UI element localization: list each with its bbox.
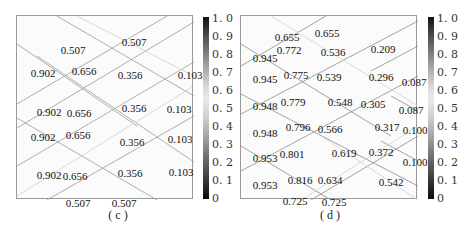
value-label: 0.953 <box>253 180 278 191</box>
value-label: 0.902 <box>37 107 62 118</box>
value-label: 0.100 <box>403 157 428 168</box>
value-label: 0.902 <box>37 170 62 181</box>
value-label: 0.656 <box>66 130 91 141</box>
colorbar-tick-label: 0. 8 <box>212 49 233 60</box>
colorbar-c <box>203 17 209 199</box>
value-label: 0.507 <box>112 198 137 209</box>
value-label: 0.087 <box>402 77 427 88</box>
colorbar-tick-label: 0. 5 <box>437 103 458 114</box>
value-label: 0.779 <box>281 97 306 108</box>
value-label: 0.656 <box>72 66 97 77</box>
colorbar-tick-label: 0. 1 <box>437 175 458 186</box>
value-label: 0.548 <box>328 97 353 108</box>
value-label: 0.634 <box>318 175 343 186</box>
colorbar-tick-label: 0. 4 <box>212 121 233 132</box>
heatmap-panel-d: 0.6550.6550.9450.7720.5360.2090.9450.775… <box>240 15 417 199</box>
value-label: 0.902 <box>31 68 56 79</box>
value-label: 0.801 <box>280 149 305 160</box>
value-label: 0.655 <box>315 28 340 39</box>
value-label: 0.296 <box>369 72 394 83</box>
colorbar-tick-label: 0. 3 <box>437 139 458 150</box>
value-label: 0.656 <box>67 108 92 119</box>
value-label: 0.566 <box>318 124 343 135</box>
colorbar-tick-label: 0. 2 <box>437 157 458 168</box>
colorbar-tick-label: 0. 8 <box>437 49 458 60</box>
value-label: 0.725 <box>322 197 347 208</box>
value-label: 0.372 <box>369 147 394 158</box>
value-label: 0.536 <box>321 47 346 58</box>
caption-c: ( c ) <box>108 208 127 223</box>
colorbar-tick-label: 1. 0 <box>437 13 458 24</box>
colorbar-tick-label: 0. 7 <box>212 67 233 78</box>
value-label: 0.725 <box>283 196 308 207</box>
colorbar-tick-label: 0. 6 <box>212 85 233 96</box>
value-label: 0.356 <box>120 137 145 148</box>
value-label: 0.945 <box>253 74 278 85</box>
value-label: 0.356 <box>118 70 143 81</box>
value-label: 0.103 <box>168 134 193 145</box>
value-label: 0.619 <box>332 148 357 159</box>
colorbar-tick-label: 0. 2 <box>212 157 233 168</box>
value-label: 0.772 <box>277 45 302 56</box>
value-label: 0.103 <box>178 70 203 81</box>
value-label: 0.902 <box>31 132 56 143</box>
value-label: 0.796 <box>286 122 311 133</box>
value-label: 0.305 <box>361 99 386 110</box>
value-label: 0.656 <box>63 171 88 182</box>
colorbar-tick-label: 0. 9 <box>437 31 458 42</box>
value-label: 0.087 <box>399 105 424 116</box>
value-label: 0.542 <box>379 177 404 188</box>
value-label: 0.103 <box>167 104 192 115</box>
colorbar-tick-label: 0. 6 <box>437 85 458 96</box>
value-label: 0.507 <box>122 37 147 48</box>
value-label: 0.209 <box>371 44 396 55</box>
colorbar-tick-label: 0. 9 <box>212 31 233 42</box>
value-label: 0.356 <box>118 168 143 179</box>
colorbar-tick-label: 0. 3 <box>212 139 233 150</box>
value-label: 0.816 <box>288 175 313 186</box>
value-label: 0.775 <box>284 70 309 81</box>
caption-d: ( d ) <box>320 208 340 223</box>
colorbar-tick-label: 0. 1 <box>212 175 233 186</box>
value-label: 0.100 <box>403 125 428 136</box>
colorbar-tick-label: 1. 0 <box>212 13 233 24</box>
value-label: 0.948 <box>253 128 278 139</box>
value-label: 0.507 <box>66 198 91 209</box>
value-label: 0.948 <box>253 101 278 112</box>
colorbar-tick-label: 0. 5 <box>212 103 233 114</box>
value-label: 0.953 <box>253 153 278 164</box>
colorbar-tick-label: 0. 4 <box>437 121 458 132</box>
value-label: 0.655 <box>275 32 300 43</box>
colorbar-tick-label: 0 <box>212 193 219 204</box>
value-label: 0.539 <box>317 72 342 83</box>
value-label: 0.317 <box>375 122 400 133</box>
colorbar-d <box>428 17 434 199</box>
value-label: 0.945 <box>253 53 278 64</box>
value-label: 0.507 <box>61 45 86 56</box>
colorbar-tick-label: 0 <box>437 193 444 204</box>
heatmap-panel-c: 0.5070.5070.9020.6560.3560.1030.9020.656… <box>16 15 193 199</box>
value-label: 0.103 <box>169 167 194 178</box>
value-label: 0.356 <box>122 103 147 114</box>
colorbar-tick-label: 0. 7 <box>437 67 458 78</box>
